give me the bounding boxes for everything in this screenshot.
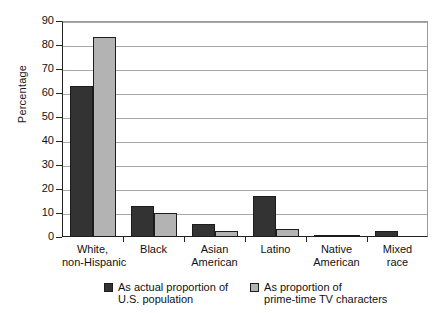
- x-axis-label-line: race: [367, 256, 428, 269]
- legend-label-line: As actual proportion of: [118, 281, 228, 293]
- y-axis-tick-label: 10: [8, 207, 54, 218]
- x-axis-labels: White,non-HispanicBlackAsianAmericanLati…: [62, 243, 428, 275]
- bar-tv: [154, 213, 177, 237]
- x-axis-category-label: AsianAmerican: [184, 243, 245, 269]
- y-axis-tick-label: 40: [8, 135, 54, 146]
- y-axis-tick-label: 80: [8, 39, 54, 50]
- x-axis-label-line: American: [184, 256, 245, 269]
- x-axis-category-label: Mixedrace: [367, 243, 428, 269]
- x-axis-tick: [245, 237, 246, 242]
- bar-actual: [70, 86, 93, 237]
- x-axis-tick: [306, 237, 307, 242]
- y-axis-tick-label: 90: [8, 15, 54, 26]
- legend-entry: As proportion ofprime-time TV characters: [250, 281, 387, 305]
- legend-label-line: U.S. population: [118, 293, 228, 305]
- y-axis-tick-label: 70: [8, 63, 54, 74]
- legend-swatch-tv: [250, 283, 259, 292]
- legend-entry: As actual proportion ofU.S. population: [104, 281, 228, 305]
- bar-actual: [192, 224, 215, 237]
- y-axis-tick-label: 60: [8, 87, 54, 98]
- legend-label-line: As proportion of: [264, 281, 387, 293]
- bar-chart: Percentage 0102030405060708090 White,non…: [0, 0, 442, 313]
- bars-layer: [62, 21, 428, 237]
- chart-legend: As actual proportion ofU.S. populationAs…: [104, 281, 387, 305]
- legend-label: As actual proportion ofU.S. population: [118, 281, 228, 305]
- bar-tv: [276, 229, 299, 237]
- legend-label: As proportion ofprime-time TV characters: [264, 281, 387, 305]
- x-axis-category-label: NativeAmerican: [306, 243, 367, 269]
- y-axis-tick-label: 20: [8, 183, 54, 194]
- x-axis-label-line: Asian: [184, 243, 245, 256]
- bar-tv: [93, 37, 116, 237]
- x-axis-label-line: American: [306, 256, 367, 269]
- bar-actual: [253, 196, 276, 237]
- x-axis-category-label: Latino: [245, 243, 306, 256]
- x-axis-label-line: Native: [306, 243, 367, 256]
- x-axis-label-line: White,: [62, 243, 123, 256]
- y-axis-tick-label: 0: [8, 231, 54, 242]
- x-axis-label-line: Latino: [245, 243, 306, 256]
- y-axis-tick-label: 30: [8, 159, 54, 170]
- y-axis-tick-label: 50: [8, 111, 54, 122]
- bar-actual: [131, 206, 154, 237]
- x-axis-tick: [123, 237, 124, 242]
- x-axis-label-line: Black: [123, 243, 184, 256]
- x-axis-label-line: non-Hispanic: [62, 256, 123, 269]
- y-axis: 0102030405060708090: [0, 0, 54, 313]
- x-axis-tick: [367, 237, 368, 242]
- x-axis-category-label: Black: [123, 243, 184, 256]
- x-axis-category-label: White,non-Hispanic: [62, 243, 123, 269]
- legend-label-line: prime-time TV characters: [264, 293, 387, 305]
- legend-swatch-actual: [104, 283, 113, 292]
- x-axis-label-line: Mixed: [367, 243, 428, 256]
- x-axis-tick: [184, 237, 185, 242]
